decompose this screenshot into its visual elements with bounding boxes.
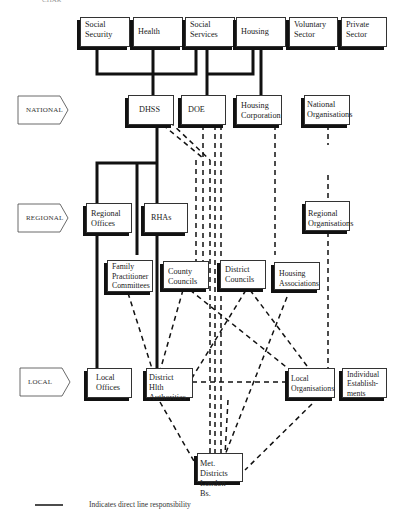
- org-chart-diagram: CHAR NATIONAL REGIONAL LOCAL Social Secu…: [0, 0, 408, 511]
- level-local: LOCAL: [20, 368, 68, 396]
- node-private-sector: Private Sector: [341, 17, 387, 47]
- node-county-councils: County Councils: [163, 261, 209, 289]
- node-regional-offices: Regional Offices: [86, 203, 132, 233]
- node-national-organisations: National Organisations: [304, 95, 350, 125]
- node-district-hlth-authorities: District Hlth Authorities: [146, 368, 193, 398]
- node-district-councils: District Councils: [220, 260, 266, 289]
- node-met-districts-london-bs: Met. Districts London Bs.: [197, 453, 243, 482]
- connector-lines: [0, 0, 408, 511]
- node-dhss: DHSS: [128, 95, 174, 125]
- node-social-security: Social Security: [80, 17, 130, 47]
- node-family-practitioner-committees: Family Practitioner Committees: [107, 260, 153, 292]
- node-regional-organisations: Regional Organisations: [305, 201, 350, 231]
- node-health: Health: [133, 17, 183, 47]
- node-voluntary-sector: Voluntary Sector: [289, 17, 338, 47]
- level-regional-label: REGIONAL: [18, 204, 66, 232]
- node-local-organisations: Local Organisations: [288, 368, 335, 398]
- node-housing-corporation: Housing Corporation: [236, 95, 282, 125]
- legend-solid-line-text: Indicates direct line responsibility: [89, 500, 191, 509]
- node-housing-associations: Housing Associations: [274, 262, 320, 290]
- node-rhas: RHAs: [144, 203, 188, 233]
- level-regional: REGIONAL: [18, 204, 66, 232]
- node-individual-establishments: Individual Establish- ments: [342, 368, 387, 398]
- node-housing: Housing: [236, 17, 286, 47]
- node-social-services: Social Services: [185, 17, 235, 47]
- node-local-offices: Local Offices: [87, 368, 132, 398]
- level-local-label: LOCAL: [20, 368, 68, 396]
- header-fragment: CHAR: [42, 0, 61, 4]
- node-doe: DOE: [181, 95, 226, 125]
- level-national: NATIONAL: [18, 96, 66, 124]
- level-national-label: NATIONAL: [18, 96, 66, 124]
